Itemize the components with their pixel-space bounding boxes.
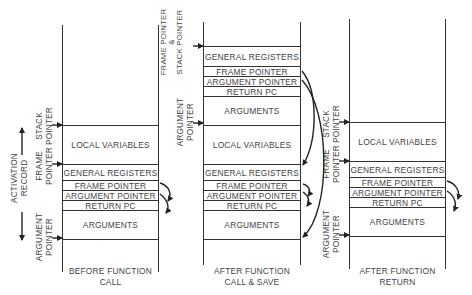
curve-arrow-icon: [303, 192, 309, 206]
saved-frame-pointer-arrow: [302, 71, 314, 165]
curve-arrow-icon: [160, 194, 168, 213]
curve-arrow-icon: [447, 191, 455, 211]
arrows-overlay: [0, 0, 472, 295]
